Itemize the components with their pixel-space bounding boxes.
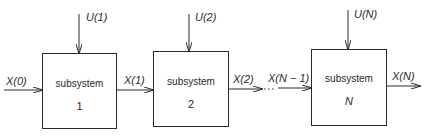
subsystem-1-number: 1	[42, 100, 117, 112]
subsystem-block-1	[42, 53, 117, 129]
label-un: U(N)	[354, 8, 377, 20]
label-x0: X(0)	[6, 75, 27, 87]
label-x2: X(2)	[233, 73, 254, 85]
subsystem-n-title: subsystem	[311, 73, 387, 84]
subsystem-n-number: N	[311, 95, 387, 107]
subsystem-2-number: 2	[153, 98, 229, 110]
label-x1: X(1)	[124, 74, 145, 86]
subsystem-2-title: subsystem	[153, 76, 229, 87]
subsystem-1-title: subsystem	[42, 78, 117, 89]
subsystem-block-n	[311, 49, 387, 126]
label-xn-1: X(N − 1)	[268, 72, 309, 84]
subsystem-block-2	[153, 51, 229, 127]
label-u1: U(1)	[86, 11, 107, 23]
label-xn: X(N)	[392, 70, 415, 82]
label-u2: U(2)	[195, 11, 216, 23]
